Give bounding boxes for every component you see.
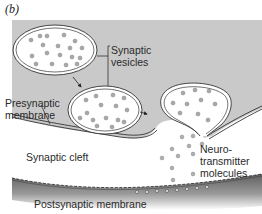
label-line: molecules — [200, 167, 250, 179]
label-line: vesicles — [111, 56, 151, 68]
synaptic-vesicle-2 — [68, 86, 142, 134]
label-synaptic-vesicles: Synaptic vesicles — [111, 44, 151, 68]
label-line: Synaptic — [111, 44, 151, 56]
synaptic-vesicle-1 — [13, 25, 97, 75]
synapse-diagram: (b) Synaptic vesicles Presynaptic membra… — [0, 0, 262, 214]
label-line: membrane — [5, 109, 60, 121]
label-synaptic-cleft: Synaptic cleft — [26, 151, 88, 163]
neurotransmitter-molecules — [160, 134, 204, 182]
label-neurotransmitter-molecules: Neuro- transmitter molecules — [200, 143, 250, 179]
label-line: Neuro- — [200, 143, 250, 155]
label-postsynaptic-membrane: Postsynaptic membrane — [34, 198, 147, 210]
label-line: Presynaptic — [5, 97, 60, 109]
panel-label: (b) — [5, 2, 19, 17]
label-presynaptic-membrane: Presynaptic membrane — [5, 97, 60, 121]
label-line: transmitter — [200, 155, 250, 167]
